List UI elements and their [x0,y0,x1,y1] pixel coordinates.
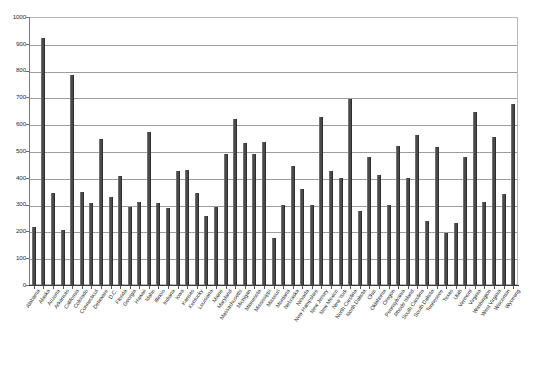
bar [262,142,266,285]
bar [502,194,506,285]
x-axis-labels: AlabamaAlaskaArizonaArkansasCaliforniaCo… [0,288,538,379]
bar [32,227,36,285]
bar [272,238,276,285]
bar [435,147,439,285]
bar [156,203,160,285]
bar [339,178,343,285]
y-tick-label-500: 500 [0,148,26,154]
bar [406,178,410,285]
bar [176,171,180,285]
bar [51,193,55,285]
bar [358,211,362,285]
bar [291,166,295,285]
bar [166,208,170,285]
bar [473,112,477,285]
bar [319,117,323,285]
bar [348,99,352,285]
bar [214,207,218,285]
bar [396,146,400,285]
bar [70,75,74,285]
bar [99,139,103,285]
bar [444,233,448,285]
bar [118,176,122,285]
bar [137,202,141,285]
bar [109,197,113,285]
bar [281,205,285,285]
bar-chart: 01002003004005006007008009001000 Alabama… [0,0,538,379]
bar [252,154,256,285]
y-tick-label-300: 300 [0,201,26,207]
bar [387,205,391,285]
bar [377,175,381,285]
bar [492,137,496,285]
bar [425,221,429,285]
bars-container [29,17,518,285]
y-tick-label-1000: 1000 [0,14,26,20]
y-tick-label-600: 600 [0,121,26,127]
bar [243,143,247,285]
y-tick-label-900: 900 [0,41,26,47]
bar [224,154,228,285]
y-tick-label-700: 700 [0,94,26,100]
bar [367,157,371,285]
y-tick-label-200: 200 [0,228,26,234]
y-tick-label-100: 100 [0,255,26,261]
bar [195,193,199,285]
bar [310,205,314,285]
bar [482,202,486,285]
bar [300,189,304,285]
bar [463,157,467,285]
bar [511,104,515,285]
bar [329,171,333,285]
bar [185,170,189,285]
bar [89,203,93,285]
bar [147,132,151,285]
bar [80,192,84,285]
y-tick-label-800: 800 [0,67,26,73]
bar [233,119,237,285]
bar [128,207,132,285]
y-tick-label-0: 0 [0,282,26,288]
bar [61,230,65,285]
bar [204,216,208,285]
y-tick-label-400: 400 [0,175,26,181]
bar [454,223,458,285]
bar [41,38,45,285]
bar [415,135,419,285]
